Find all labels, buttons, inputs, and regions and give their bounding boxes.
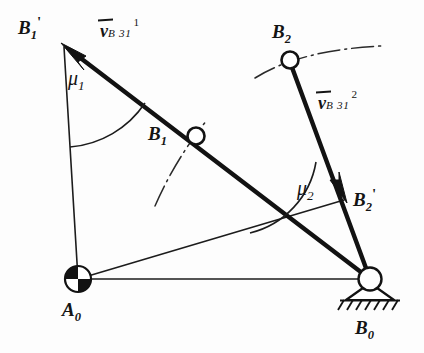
label-b2-prime-sub: 2: [366, 200, 372, 214]
kinematic-diagram: B1' B1 B2 B2' A0 B0 μ1 μ2 vB 311 vB 312: [0, 0, 424, 353]
label-vector-v-b31-1: vB 311: [100, 22, 137, 40]
joint-b2-icon: [282, 52, 299, 69]
label-v2-sub: B 31: [326, 99, 349, 111]
label-b1-sub: 1: [161, 134, 167, 148]
thick-lines-group: [70, 50, 370, 279]
label-b2-prime-base: B: [353, 189, 366, 210]
label-b1-base: B: [148, 123, 161, 144]
label-a0-sub: 0: [75, 310, 81, 324]
label-mu2-base: μ: [297, 177, 307, 199]
label-v2-sup: 2: [351, 88, 357, 100]
label-mu1: μ1: [68, 68, 85, 92]
label-mu1-sub: 1: [78, 78, 85, 93]
label-b0-base: B: [355, 317, 368, 338]
link-a0-b2prime-line: [78, 200, 344, 279]
vector-v-b31-1-shaft: [70, 50, 370, 279]
label-v1-base: v: [100, 22, 108, 40]
label-b2-prime: B2': [353, 186, 376, 214]
label-b2: B2: [272, 22, 291, 45]
label-mu2-sub: 2: [307, 188, 314, 203]
label-v1-sup: 1: [133, 16, 139, 28]
label-a0: A0: [62, 300, 81, 323]
path-arc-group: [155, 46, 381, 206]
angle-arc-mu1-icon: [70, 103, 145, 147]
label-v2-base: v: [318, 94, 326, 112]
label-b2-base: B: [272, 21, 285, 42]
label-v1-sub: B 31: [108, 27, 131, 39]
label-b0: B0: [355, 318, 374, 341]
label-mu2: μ2: [297, 178, 314, 202]
label-v2-group: vB 31: [318, 94, 349, 112]
label-b1-prime-sub: 1: [31, 28, 37, 42]
label-a0-base: A: [62, 299, 75, 320]
label-vector-v-b31-2: vB 312: [318, 94, 355, 112]
label-b2-sub: 2: [285, 32, 291, 46]
path-arc-b2-icon: [255, 46, 381, 78]
label-b1: B1: [148, 124, 167, 147]
label-b1-prime: B1': [18, 14, 41, 42]
label-b2-prime-mark: ': [372, 185, 376, 202]
label-b1-prime-base: B: [18, 17, 31, 38]
label-b0-sub: 0: [368, 328, 374, 342]
ground-pivot-b0-icon: [338, 268, 400, 311]
label-v1-group: vB 31: [100, 22, 131, 40]
joint-b1-icon: [188, 128, 205, 145]
label-mu1-base: μ: [68, 67, 78, 89]
label-b1-prime-mark: ': [37, 13, 41, 30]
fixed-pivot-a0-icon: [65, 266, 91, 292]
